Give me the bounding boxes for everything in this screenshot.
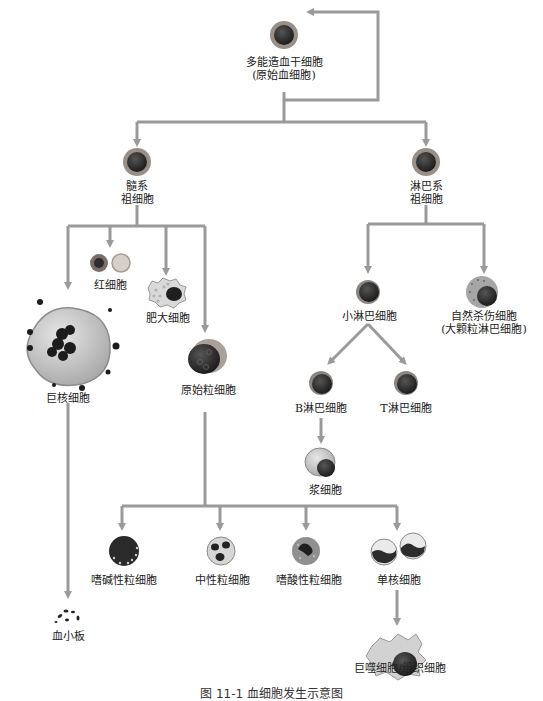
connector-lines xyxy=(68,12,484,622)
label-stem-cell-line2: (原始血细胞) xyxy=(246,69,323,82)
plasma-cell-icon xyxy=(305,448,335,477)
mast-cell-icon xyxy=(148,278,186,308)
label-macrophage: 巨噬细胞/组织细胞 xyxy=(354,662,446,675)
label-plasma-cell: 浆细胞 xyxy=(309,484,342,497)
label-small-lymphocyte: 小淋巴细胞 xyxy=(342,310,397,323)
eosinophil-icon xyxy=(292,537,320,565)
label-lymphoid-line2: 祖细胞 xyxy=(410,193,443,206)
label-stem-cell-line1: 多能造血干细胞 xyxy=(246,56,323,69)
label-myeloid-line2: 祖细胞 xyxy=(121,193,154,206)
label-nk-line2: (大颗粒淋巴细胞) xyxy=(441,323,527,336)
nk-cell-icon xyxy=(466,276,498,308)
lymphoid-progenitor-icon xyxy=(412,148,440,176)
figure-caption: 图 11-1 血细胞发生示意图 xyxy=(200,684,343,701)
label-nk-cell: 自然杀伤细胞 (大颗粒淋巴细胞) xyxy=(441,310,527,336)
label-mast-cell: 肥大细胞 xyxy=(146,312,190,325)
label-myeloblast: 原始粒细胞 xyxy=(181,384,236,397)
label-myeloid-progenitor: 髓系 祖细胞 xyxy=(121,180,154,206)
label-lymphoid-progenitor: 淋巴系 祖细胞 xyxy=(410,180,443,206)
label-platelet: 血小板 xyxy=(52,630,85,643)
label-monocyte: 单核细胞 xyxy=(377,574,421,587)
label-neutrophil: 中性粒细胞 xyxy=(195,574,250,587)
label-megakaryocyte: 巨核细胞 xyxy=(46,392,90,405)
b-cell-icon xyxy=(309,371,333,395)
label-basophil: 嗜碱性粒细胞 xyxy=(91,574,157,587)
basophil-icon xyxy=(109,536,139,566)
label-myeloid-line1: 髓系 xyxy=(121,180,154,193)
neutrophil-icon xyxy=(207,537,235,565)
monocyte-icon xyxy=(371,533,426,565)
platelet-icon xyxy=(55,610,80,624)
myeloid-progenitor-icon xyxy=(123,148,151,176)
label-nk-line1: 自然杀伤细胞 xyxy=(441,310,527,323)
t-cell-icon xyxy=(394,371,418,395)
megakaryocyte-icon xyxy=(27,299,120,391)
label-rbc: 红细胞 xyxy=(94,279,127,292)
label-eosinophil: 嗜酸性粒细胞 xyxy=(276,574,342,587)
myeloblast-icon xyxy=(188,339,227,374)
label-lymphoid-line1: 淋巴系 xyxy=(410,180,443,193)
label-t-cell: T淋巴细胞 xyxy=(380,402,431,415)
label-b-cell: B淋巴细胞 xyxy=(295,402,347,415)
red-blood-cell-icon xyxy=(90,254,130,272)
stem-cell-icon xyxy=(270,21,298,49)
label-stem-cell: 多能造血干细胞 (原始血细胞) xyxy=(246,56,323,82)
small-lymphocyte-icon xyxy=(356,280,380,304)
